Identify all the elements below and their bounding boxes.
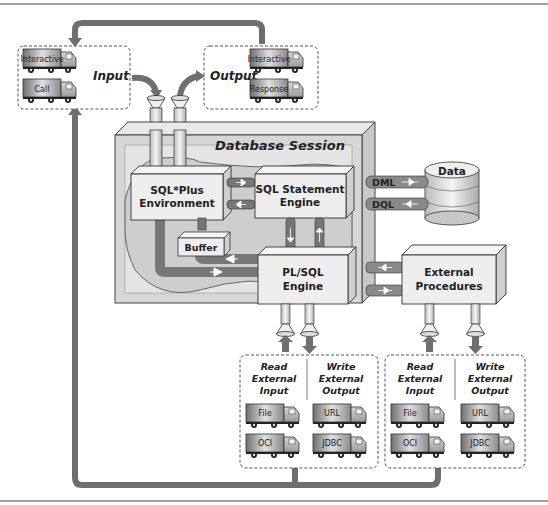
- output-to-input-loop-arrow: [75, 23, 262, 44]
- truck-label: Interactive: [247, 55, 290, 64]
- svg-text:External: External: [319, 373, 364, 384]
- svg-text:Engine: Engine: [283, 280, 323, 292]
- write-arrow-down: [468, 336, 483, 354]
- truck-label: URL: [324, 409, 340, 418]
- svg-text:Read: Read: [407, 361, 434, 372]
- svg-text:External: External: [252, 373, 297, 384]
- truck-label: File: [403, 409, 416, 418]
- truck-label: JDBC: [469, 439, 490, 448]
- sql-statement-label: SQL Statement: [255, 183, 344, 195]
- svg-text:External: External: [468, 373, 513, 384]
- write-arrow-down: [302, 336, 317, 354]
- truck-label: Call: [35, 85, 50, 94]
- plsql-engine-box: PL/SQL Engine: [258, 247, 356, 304]
- sql-statement-engine-box: SQL Statement Engine: [255, 166, 354, 218]
- truck-label: Interactive: [20, 55, 63, 64]
- output-box: Output Interactive Response: [204, 46, 318, 109]
- plsql-label: PL/SQL: [282, 266, 324, 278]
- svg-text:Input: Input: [260, 385, 289, 396]
- svg-text:Procedures: Procedures: [416, 280, 483, 292]
- truck-label: URL: [472, 409, 488, 418]
- svg-text:Output: Output: [322, 385, 360, 396]
- buffer-label: Buffer: [185, 242, 218, 253]
- svg-text:Environment: Environment: [139, 197, 215, 209]
- svg-text:Write: Write: [476, 361, 505, 372]
- session-title: Database Session: [215, 138, 345, 153]
- external-io-box-1: Read External Input Write External Outpu…: [240, 355, 378, 468]
- data-store: Data: [425, 162, 479, 225]
- truck-label: Response: [250, 85, 289, 94]
- architecture-diagram: Interactive Call Input Output Interactiv…: [0, 0, 548, 505]
- external-procedures-label: External: [424, 266, 473, 278]
- sqlplus-label: SQL*Plus: [150, 184, 204, 196]
- data-label: Data: [438, 165, 466, 177]
- input-box: Interactive Call Input: [18, 46, 130, 109]
- external-procedures-box: External Procedures: [402, 245, 506, 304]
- svg-text:Output: Output: [471, 385, 509, 396]
- read-arrow-up: [278, 335, 293, 352]
- svg-text:Write: Write: [327, 361, 356, 372]
- svg-text:DML: DML: [372, 177, 395, 188]
- input-flow-arrow: [132, 78, 156, 92]
- dql-channel: DQL: [366, 198, 428, 210]
- truck-label: OCI: [258, 439, 272, 448]
- input-label: Input: [93, 69, 130, 83]
- svg-text:External: External: [398, 373, 443, 384]
- sqlplus-environment-box: SQL*Plus Environment: [131, 166, 231, 220]
- svg-text:Input: Input: [406, 385, 435, 396]
- svg-text:Engine: Engine: [280, 196, 320, 208]
- output-flow-arrow: [180, 76, 198, 96]
- read-arrow-up: [422, 335, 437, 352]
- svg-text:DQL: DQL: [372, 199, 394, 210]
- truck-label: OCI: [403, 439, 417, 448]
- external-io-box-2: Read External Input Write External Outpu…: [385, 355, 525, 468]
- truck-label: File: [258, 409, 271, 418]
- buffer-box: Buffer: [178, 232, 230, 256]
- truck-label: JDBC: [321, 439, 342, 448]
- svg-text:Read: Read: [261, 361, 288, 372]
- dml-channel: DML: [366, 176, 428, 188]
